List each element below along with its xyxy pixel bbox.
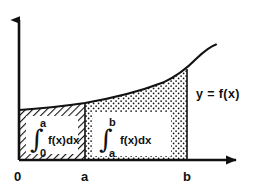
region-0-to-a bbox=[19, 103, 85, 160]
curve-label: y = f(x) bbox=[196, 87, 240, 101]
diagram-canvas: ∫ a 0 f(x)dx ∫ b a f(x)dx y = f(x) 0 a b bbox=[0, 0, 257, 193]
integrand-right: f(x)dx bbox=[120, 134, 152, 146]
tick-label-zero: 0 bbox=[14, 169, 21, 184]
integral-upper-limit-right: b bbox=[109, 116, 116, 128]
tick-label-b: b bbox=[183, 169, 191, 184]
integrand-left: f(x)dx bbox=[48, 134, 80, 146]
integral-lower-limit-left: 0 bbox=[40, 147, 46, 159]
tick-label-a: a bbox=[81, 169, 89, 184]
integral-diagram: ∫ a 0 f(x)dx ∫ b a f(x)dx y = f(x) 0 a b bbox=[0, 0, 257, 193]
integral-lower-limit-right: a bbox=[109, 147, 116, 159]
integral-upper-limit-left: a bbox=[40, 117, 47, 129]
